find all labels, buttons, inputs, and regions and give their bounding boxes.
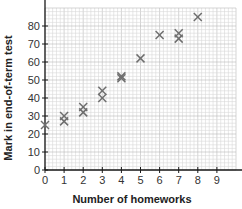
- scatter-chart: 012345678901020304050607080 Number of ho…: [0, 0, 242, 209]
- y-axis-label: Mark in end-of-term test: [2, 35, 14, 161]
- x-tick-label: 3: [99, 174, 105, 186]
- x-tick-label: 4: [118, 174, 124, 186]
- x-tick-label: 2: [80, 174, 86, 186]
- y-tick-label: 30: [28, 110, 40, 122]
- y-tick-label: 0: [34, 164, 40, 176]
- y-tick-label: 10: [28, 146, 40, 158]
- y-tick-label: 40: [28, 92, 40, 104]
- x-tick-label: 5: [137, 174, 143, 186]
- x-axis-label: Number of homeworks: [72, 193, 191, 205]
- x-tick-label: 8: [195, 174, 201, 186]
- chart-canvas: 012345678901020304050607080 Number of ho…: [0, 0, 242, 209]
- x-tick-label: 9: [214, 174, 220, 186]
- x-tick-label: 7: [176, 174, 182, 186]
- y-tick-label: 80: [28, 20, 40, 32]
- x-tick-label: 6: [157, 174, 163, 186]
- y-tick-label: 20: [28, 128, 40, 140]
- y-tick-label: 50: [28, 74, 40, 86]
- x-tick-label: 0: [42, 174, 48, 186]
- y-tick-label: 60: [28, 56, 40, 68]
- grid: [45, 8, 236, 170]
- x-tick-label: 1: [61, 174, 67, 186]
- y-tick-label: 70: [28, 38, 40, 50]
